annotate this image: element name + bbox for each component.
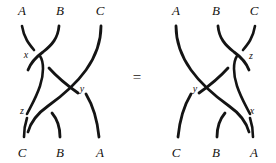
left-crossing-label-x: x <box>23 49 29 60</box>
right-strand-exit-right <box>250 118 253 137</box>
right-top-label-c: C <box>250 3 259 18</box>
right-crossing-label-z: z <box>248 50 253 61</box>
right-crossing-label-y: y <box>192 83 198 94</box>
left-top-label-c: C <box>96 3 105 18</box>
right-strand-b-diagonal <box>199 68 228 93</box>
right-crossing-label-x: x <box>249 105 255 116</box>
right-bottom-label-c: C <box>172 145 181 160</box>
left-top-label-a: A <box>17 3 26 18</box>
left-crossing-label-y: y <box>79 83 85 94</box>
left-bottom-label-b: B <box>56 145 64 160</box>
left-braid-diagram: A B C C B A x y z <box>17 3 105 160</box>
equals-sign: = <box>133 69 141 85</box>
left-strand-exit-right <box>86 94 99 137</box>
braid-relation-figure: A B C C B A x y z = A B C C <box>0 0 276 163</box>
left-strand-c <box>28 26 101 132</box>
right-bottom-label-b: B <box>212 145 220 160</box>
left-crossing-label-z: z <box>19 105 24 116</box>
right-strand-a <box>176 26 249 132</box>
right-strand-exit-left <box>178 94 191 137</box>
left-bottom-label-c: C <box>18 145 27 160</box>
left-strand-b-diagonal <box>49 68 78 93</box>
left-bottom-label-a: A <box>95 145 104 160</box>
right-strand-c <box>243 26 255 50</box>
right-braid-diagram: A B C C B A z y x <box>171 3 259 160</box>
right-top-label-a: A <box>171 3 180 18</box>
left-strand-exit-left <box>24 118 27 137</box>
left-top-label-b: B <box>56 3 64 18</box>
right-strand-bottom-middle <box>217 113 225 137</box>
right-top-label-b: B <box>212 3 220 18</box>
right-bottom-label-a: A <box>249 145 258 160</box>
left-strand-a <box>22 26 34 50</box>
left-strand-bottom-middle <box>52 113 60 137</box>
